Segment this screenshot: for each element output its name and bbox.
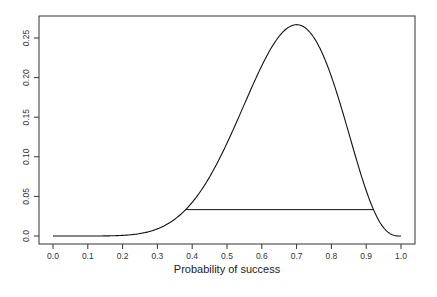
x-tick-label: 0.7 (291, 251, 303, 261)
x-tick-label: 1.0 (395, 251, 407, 261)
x-tick-label: 0.9 (360, 251, 372, 261)
x-tick-label: 0.1 (82, 251, 94, 261)
y-tick-label: 0.25 (21, 29, 31, 46)
x-axis: 0.00.10.20.30.40.50.60.70.80.91.0 (47, 244, 407, 261)
likelihood-chart: 0.00.10.20.30.40.50.60.70.80.91.0 0.00.0… (0, 0, 437, 297)
likelihood-curve (53, 25, 401, 236)
x-tick-label: 0.8 (325, 251, 337, 261)
y-tick-label: 0.10 (21, 148, 31, 165)
x-tick-label: 0.6 (256, 251, 268, 261)
y-tick-label: 0.20 (21, 69, 31, 86)
x-tick-label: 0.2 (117, 251, 129, 261)
x-tick-label: 0.5 (221, 251, 233, 261)
x-tick-label: 0.0 (47, 251, 59, 261)
y-tick-label: 0.0 (21, 230, 31, 242)
y-tick-label: 0.15 (21, 109, 31, 126)
y-axis: 0.00.050.100.150.200.25 (21, 29, 39, 241)
x-tick-label: 0.3 (151, 251, 163, 261)
x-axis-title: Probability of success (174, 263, 281, 275)
x-tick-label: 0.4 (186, 251, 198, 261)
y-tick-label: 0.05 (21, 188, 31, 205)
